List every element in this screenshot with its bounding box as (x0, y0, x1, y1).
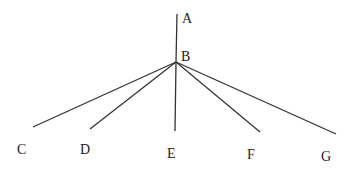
segment-BG (176, 62, 336, 134)
label-F: F (247, 147, 255, 162)
ray-diagram: A B C D E F G (0, 0, 352, 169)
segment-BF (176, 62, 260, 132)
label-G: G (321, 149, 331, 164)
label-C: C (17, 142, 26, 157)
label-A: A (182, 11, 193, 26)
segment-BE (175, 62, 176, 131)
segment-BA (176, 14, 177, 62)
label-E: E (167, 146, 176, 161)
label-B: B (181, 49, 190, 64)
label-D: D (80, 142, 90, 157)
